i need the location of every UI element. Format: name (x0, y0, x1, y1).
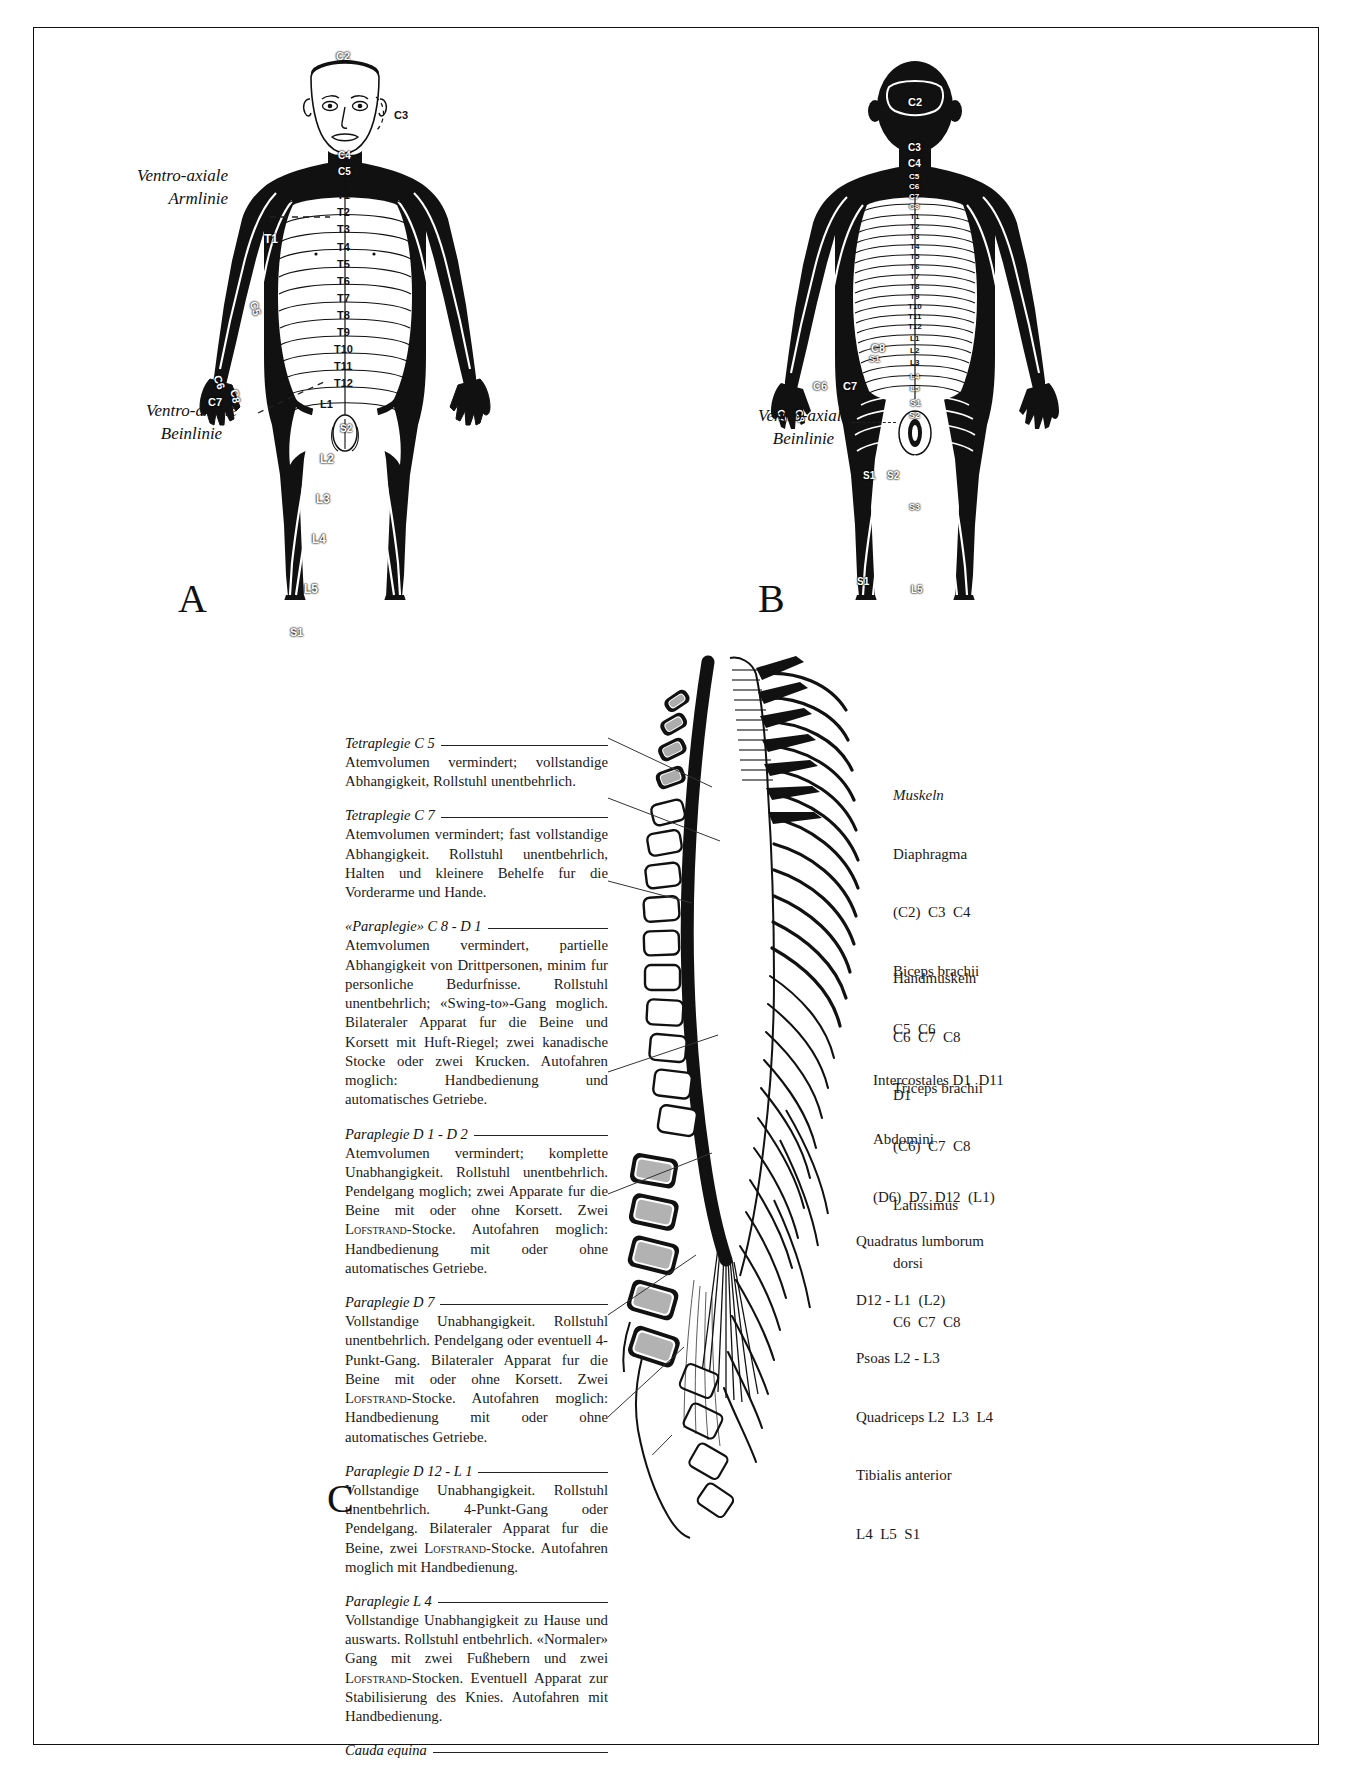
heading-rule (438, 1602, 608, 1603)
dermatome-label-c5-arm-a: C5 (248, 300, 262, 316)
figure-c-text-column: Tetraplegie C 5 Atemvolumen vermindert; … (345, 735, 608, 1775)
figure-b-letter: B (758, 575, 785, 622)
dermatome-label-s2-left-b: S2 (887, 471, 899, 481)
heading-rule (433, 1752, 608, 1753)
body-smallcaps: Lofstrand (345, 1390, 407, 1406)
dermatome-label-c8-arm-b: C8 (871, 343, 885, 354)
block-tetraplegie-c5-heading: Tetraplegie C 5 (345, 735, 608, 752)
block-paraplegie-d7-body: Vollstandige Unabhangigkeit. Rollstuhl u… (345, 1312, 608, 1447)
dermatome-label-t12-b: T12 (908, 323, 922, 331)
dermatome-label-l3-a: L3 (316, 493, 330, 505)
callout-ventro-axiale-beinlinie-a: Ventro-axiale Beinlinie (146, 400, 237, 446)
heading-rule (440, 1304, 608, 1305)
dermatome-label-l2-b: L2 (910, 347, 919, 355)
dermatome-label-l5-calf-b: L5 (911, 585, 923, 595)
dermatome-label-t3-b: T3 (910, 233, 919, 241)
muscle-line: Tibialis anterior (856, 1466, 993, 1486)
figure-c-spinal-column (590, 640, 890, 1540)
block-paraplegie-l4: Paraplegie L 4 Vollstandige Unabhangigke… (345, 1593, 608, 1726)
callout-beinlinie-b-line2: Beinlinie (758, 428, 849, 451)
dermatome-label-c5-a: C5 (338, 167, 351, 177)
body-pre: Atemvolumen vermindert; komplette Unabha… (345, 1145, 608, 1219)
dermatome-label-t4-a: T4 (337, 242, 350, 253)
body-pre: Vollstandige Unabhangigkeit. Rollstuhl u… (345, 1313, 608, 1387)
dermatome-label-t1-b: T1 (910, 213, 919, 221)
block-paraplegie-d1-d2: Paraplegie D 1 - D 2 Atemvolumen vermind… (345, 1126, 608, 1279)
block-tetraplegie-c5: Tetraplegie C 5 Atemvolumen vermindert; … (345, 735, 608, 791)
dermatome-label-l2-a: L2 (320, 453, 334, 465)
heading-text: Tetraplegie C 5 (345, 735, 435, 752)
dermatome-label-t2-b: T2 (910, 223, 919, 231)
block-tetraplegie-c7-body: Atemvolumen vermindert; fast vollstandig… (345, 825, 608, 902)
callout-armlinie-line2: Armlinie (137, 188, 228, 211)
block-paraplegie-d12-l1-body: Vollstandige Unabhangigkeit. Rollstuhl u… (345, 1481, 608, 1577)
muscle-line: (C2) C3 C4 (893, 903, 983, 923)
dermatome-label-c7-arm-b: C7 (843, 381, 857, 392)
block-paraplegie-d7-heading: Paraplegie D 7 (345, 1294, 608, 1311)
dermatome-label-t9-a: T9 (337, 327, 350, 338)
muscle-line: Quadratus lumborum (856, 1232, 993, 1252)
dermatome-label-l1-a: L1 (320, 399, 333, 410)
dermatome-label-t3-a: T3 (337, 224, 350, 235)
dermatome-label-l5-a: L5 (304, 583, 318, 595)
dermatome-label-l5-b: L5 (910, 385, 919, 393)
block-paraplegie-d7: Paraplegie D 7 Vollstandige Unabhangigke… (345, 1294, 608, 1447)
callout-ventro-axiale-armlinie: Ventro-axiale Armlinie (137, 165, 228, 211)
callout-beinlinie-b-line1: Ventro-axiale (758, 405, 849, 428)
dermatome-label-c6-b: C6 (909, 183, 919, 191)
heading-text: Cauda equina (345, 1742, 427, 1759)
dermatome-label-c4-a: C4 (338, 151, 351, 161)
dermatome-label-t10-b: T10 (908, 303, 922, 311)
dermatome-label-t11-b: T11 (908, 313, 921, 321)
muscle-line: Handmuskeln (893, 969, 976, 989)
heading-rule (441, 817, 608, 818)
dermatome-label-t11-a: T11 (334, 361, 352, 372)
figure-b-posterior-dermatomes: C2 C3 C4 C5 C6 C7 C8 T1 T2 T3 T4 T5 T6 T… (765, 55, 1065, 600)
block-tetraplegie-c7: Tetraplegie C 7 Atemvolumen vermindert; … (345, 807, 608, 902)
dermatome-label-s1-a: S1 (290, 627, 303, 638)
dermatome-label-t1-arm-a: T1 (264, 233, 278, 245)
dermatome-label-c3-a: C3 (394, 110, 408, 121)
block-tetraplegie-c5-body: Atemvolumen vermindert; vollstandige Abh… (345, 753, 608, 791)
dermatome-label-t5-b: T5 (910, 253, 919, 261)
heading-text: Paraplegie D 7 (345, 1294, 434, 1311)
muscle-group-upper-title: Muskeln (893, 786, 983, 806)
dermatome-label-t6-a: T6 (337, 276, 350, 287)
block-paraplegie-d1-d2-body: Atemvolumen vermindert; komplette Unabha… (345, 1144, 608, 1279)
dermatome-label-t2-a: T2 (337, 207, 350, 218)
dermatome-label-l3-b: L3 (910, 359, 919, 367)
block-paraplegie-c8-d1-heading: «Paraplegie» C 8 - D 1 (345, 918, 608, 935)
dermatome-label-t8-b: T8 (910, 283, 919, 291)
callout-armlinie-line1: Ventro-axiale (137, 165, 228, 188)
heading-text: «Paraplegie» C 8 - D 1 (345, 918, 482, 935)
dermatome-label-s2-a: S2 (340, 424, 352, 434)
block-paraplegie-d1-d2-heading: Paraplegie D 1 - D 2 (345, 1126, 608, 1143)
dermatome-label-s1-sacral-b: S1 (869, 355, 880, 364)
muscle-line: Intercostales D1 D11 (873, 1071, 1004, 1091)
block-cauda-equina: Cauda equina (345, 1742, 608, 1759)
dermatome-label-c6-arm-b: C6 (813, 381, 827, 392)
dermatome-label-s1-calf-b: S1 (857, 577, 869, 587)
dermatome-label-s3-b: S3 (909, 503, 920, 512)
body-smallcaps: Lofstrand (345, 1670, 407, 1686)
dermatome-label-t1-a: T1 (337, 190, 350, 201)
dermatome-label-c4-b: C4 (908, 159, 921, 169)
block-paraplegie-l4-heading: Paraplegie L 4 (345, 1593, 608, 1610)
figure-c-letter: C (327, 1475, 354, 1522)
dermatome-label-t9-b: T9 (910, 293, 919, 301)
dermatome-label-c2-a: C2 (336, 51, 350, 62)
callout-beinlinie-a-line1: Ventro-axiale (146, 400, 237, 423)
body-smallcaps: Lofstrand (345, 1221, 407, 1237)
block-paraplegie-c8-d1: «Paraplegie» C 8 - D 1 Atemvolumen vermi… (345, 918, 608, 1109)
heading-rule (488, 928, 608, 929)
anatomy-plate-page: C2 C3 C4 C5 T1 T2 T3 T4 T5 T6 T7 T8 T9 T… (0, 0, 1353, 1779)
block-paraplegie-c8-d1-body: Atemvolumen vermindert, partielle Abhang… (345, 936, 608, 1109)
dermatome-label-c5-b: C5 (909, 173, 919, 181)
figure-a-letter: A (178, 575, 207, 622)
dermatome-label-l4-b: L4 (910, 373, 919, 381)
heading-text: Paraplegie D 12 - L 1 (345, 1463, 472, 1480)
block-tetraplegie-c7-heading: Tetraplegie C 7 (345, 807, 608, 824)
dermatome-label-s2-b: S2 (909, 411, 920, 420)
spine-svg (590, 640, 890, 1540)
heading-rule (441, 745, 608, 746)
